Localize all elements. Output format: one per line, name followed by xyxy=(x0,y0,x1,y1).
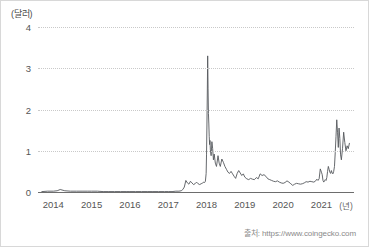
gridline-y-4 xyxy=(38,27,354,28)
gridline-y-1 xyxy=(38,151,354,152)
y-tick-label-3: 3 xyxy=(26,63,31,74)
y-tick-label-2: 2 xyxy=(26,104,31,115)
price-polyline xyxy=(42,56,350,192)
x-axis-line xyxy=(38,192,354,193)
plot-area: 01234 xyxy=(38,27,354,192)
source-attribution: 출처: https://www.coingecko.com xyxy=(244,227,356,238)
x-axis-unit-label: (년) xyxy=(339,199,353,211)
x-tick-label-2014: 2014 xyxy=(43,199,64,210)
x-tick-label-2015: 2015 xyxy=(81,199,102,210)
x-tick-label-2018: 2018 xyxy=(196,199,217,210)
y-tick-label-0: 0 xyxy=(26,187,31,198)
gridline-y-2 xyxy=(38,110,354,111)
gridline-y-3 xyxy=(38,68,354,69)
y-tick-label-1: 1 xyxy=(26,145,31,156)
x-tick-label-2021: 2021 xyxy=(311,199,332,210)
x-axis-tick-labels: 20142015201620172018201920202021(년) xyxy=(38,199,354,215)
x-tick-label-2017: 2017 xyxy=(158,199,179,210)
y-tick-label-4: 4 xyxy=(26,22,31,33)
x-tick-label-2016: 2016 xyxy=(119,199,140,210)
x-tick-label-2019: 2019 xyxy=(234,199,255,210)
x-tick-label-2020: 2020 xyxy=(273,199,294,210)
y-axis-unit-label: (달러) xyxy=(11,7,32,20)
chart-figure: (달러) 01234 20142015201620172018201920202… xyxy=(0,0,369,247)
